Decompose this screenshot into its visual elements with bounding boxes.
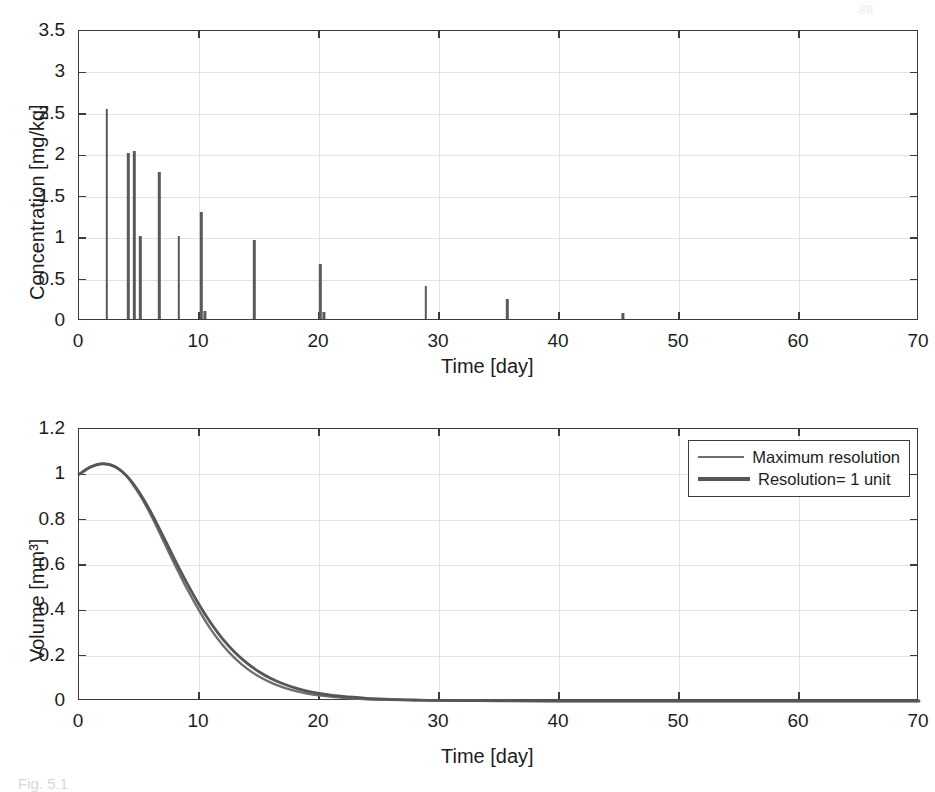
concentration-y-tick-label: 0 <box>0 309 65 331</box>
legend-line-swatch <box>698 477 750 480</box>
concentration-x-tick <box>678 312 679 319</box>
concentration-y-tick <box>910 155 917 156</box>
volume-x-axis-title: Time [day] <box>441 745 534 768</box>
volume-x-tick-label: 30 <box>427 710 448 732</box>
volume-y-tick-label: 0 <box>0 689 65 711</box>
concentration-gridline-h <box>79 155 917 156</box>
volume-curve-1 <box>79 463 919 701</box>
concentration-y-tick <box>910 72 917 73</box>
concentration-x-tick <box>438 312 439 319</box>
volume-y-tick-label: 1.2 <box>0 417 65 439</box>
concentration-y-tick <box>79 155 86 156</box>
concentration-y-tick-label: 2.5 <box>0 102 65 124</box>
volume-x-tick-label: 50 <box>667 710 688 732</box>
volume-y-tick-label: 0.4 <box>0 598 65 620</box>
concentration-gridline-h <box>79 280 917 281</box>
concentration-x-axis-title: Time [day] <box>441 355 534 378</box>
concentration-spike <box>253 240 255 319</box>
concentration-spike <box>139 236 141 319</box>
volume-x-tick-label: 10 <box>187 710 208 732</box>
concentration-y-tick <box>79 237 86 238</box>
concentration-plot-area <box>78 30 918 320</box>
concentration-y-tick-label: 0.5 <box>0 268 65 290</box>
concentration-x-tick <box>798 312 799 319</box>
concentration-y-tick-label: 1 <box>0 226 65 248</box>
volume-legend: Maximum resolutionResolution= 1 unit <box>688 440 910 497</box>
concentration-x-tick-label: 10 <box>187 330 208 352</box>
concentration-y-tick-label: 3.5 <box>0 19 65 41</box>
legend-item: Resolution= 1 unit <box>698 468 900 490</box>
concentration-x-tick-label: 20 <box>307 330 328 352</box>
concentration-y-tick <box>910 237 917 238</box>
concentration-spike <box>621 313 624 319</box>
concentration-x-tick-label: 70 <box>907 330 928 352</box>
concentration-spike <box>200 212 202 319</box>
concentration-gridline-h <box>79 114 917 115</box>
volume-y-tick-label: 0.2 <box>0 644 65 666</box>
concentration-gridline-v <box>439 31 440 319</box>
concentration-spike <box>322 312 325 319</box>
legend-label: Resolution= 1 unit <box>758 470 891 489</box>
concentration-spike <box>203 311 206 319</box>
volume-x-tick-label: 40 <box>547 710 568 732</box>
volume-x-tick-label: 0 <box>73 710 84 732</box>
volume-x-tick-label: 70 <box>907 710 928 732</box>
concentration-x-tick-label: 50 <box>667 330 688 352</box>
concentration-gridline-v <box>679 31 680 319</box>
concentration-x-tick <box>438 31 439 38</box>
concentration-x-tick <box>198 31 199 38</box>
concentration-gridline-h <box>79 72 917 73</box>
volume-y-tick-label: 0.6 <box>0 553 65 575</box>
concentration-x-tick <box>318 31 319 38</box>
concentration-y-tick <box>79 196 86 197</box>
concentration-y-tick-label: 2 <box>0 143 65 165</box>
concentration-spike <box>105 109 107 319</box>
concentration-y-tick <box>910 279 917 280</box>
concentration-x-tick-label: 40 <box>547 330 568 352</box>
concentration-x-tick-label: 30 <box>427 330 448 352</box>
concentration-spike <box>319 264 321 320</box>
concentration-gridline-v <box>799 31 800 319</box>
concentration-y-tick <box>79 279 86 280</box>
concentration-y-tick-label: 3 <box>0 60 65 82</box>
concentration-gridline-h <box>79 238 917 239</box>
volume-y-tick-label: 1 <box>0 462 65 484</box>
concentration-spike <box>127 153 129 319</box>
concentration-x-tick-label: 60 <box>787 330 808 352</box>
concentration-x-tick <box>678 31 679 38</box>
volume-panel: Volume [mm³] Time [day] Maximum resoluti… <box>0 400 935 790</box>
concentration-y-tick <box>910 196 917 197</box>
concentration-spike <box>177 236 179 319</box>
concentration-gridline-h <box>79 197 917 198</box>
concentration-spike <box>425 286 427 319</box>
figure-caption: Fig. 5.1 <box>18 775 68 792</box>
volume-x-tick-label: 20 <box>307 710 328 732</box>
volume-x-tick-label: 60 <box>787 710 808 732</box>
concentration-spike <box>506 299 508 319</box>
concentration-x-tick <box>798 31 799 38</box>
concentration-y-tick <box>910 113 917 114</box>
concentration-gridline-v <box>559 31 560 319</box>
legend-item: Maximum resolution <box>698 446 900 468</box>
concentration-spike <box>133 151 135 319</box>
concentration-y-tick <box>79 113 86 114</box>
concentration-y-tick-label: 1.5 <box>0 185 65 207</box>
concentration-spike <box>158 172 160 319</box>
legend-label: Maximum resolution <box>752 448 900 467</box>
concentration-panel: Concentration [mg/kg] Time [day] 0102030… <box>0 0 935 390</box>
legend-line-swatch <box>698 456 744 458</box>
concentration-x-tick <box>558 31 559 38</box>
concentration-y-tick <box>79 72 86 73</box>
volume-curve-2 <box>79 464 919 701</box>
concentration-x-tick <box>558 312 559 319</box>
concentration-x-tick-label: 0 <box>73 330 84 352</box>
volume-y-tick-label: 0.8 <box>0 508 65 530</box>
